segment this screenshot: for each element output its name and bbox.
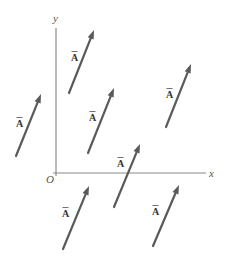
arrowhead-icon xyxy=(108,88,114,98)
x-axis-label: x xyxy=(208,167,214,179)
axes: x y O xyxy=(46,12,214,185)
vector-shaft xyxy=(69,38,91,93)
arrowhead-icon xyxy=(185,64,191,74)
arrowhead-icon xyxy=(35,94,41,104)
origin-label: O xyxy=(46,173,54,185)
arrowhead-icon xyxy=(88,30,94,40)
vector-label: A xyxy=(89,112,97,123)
arrowhead-icon xyxy=(83,186,89,196)
vector-label: A xyxy=(166,89,174,100)
vector-diagram: x y O AAAAAAA xyxy=(0,0,228,261)
vector-a-6: A xyxy=(62,186,89,249)
vector-a-7: A xyxy=(152,185,179,246)
vector-a-5: A xyxy=(114,144,140,207)
vector-label: A xyxy=(71,52,79,63)
vector-shaft xyxy=(88,96,111,153)
vector-label: A xyxy=(117,158,125,169)
vector-label: A xyxy=(16,118,24,129)
vector-shaft xyxy=(16,102,38,156)
y-axis-label: y xyxy=(52,12,58,24)
vector-shaft xyxy=(153,193,175,246)
vector-a-4: A xyxy=(16,94,41,156)
vector-shaft xyxy=(63,194,86,249)
vector-a-1: A xyxy=(69,30,94,93)
arrowhead-icon xyxy=(134,144,140,154)
arrowhead-icon xyxy=(173,185,179,195)
vector-a-2: A xyxy=(88,88,114,153)
vector-a-3: A xyxy=(166,64,191,127)
vector-label: A xyxy=(62,208,70,219)
vector-label: A xyxy=(152,206,160,217)
vectors-group: AAAAAAA xyxy=(16,30,191,249)
